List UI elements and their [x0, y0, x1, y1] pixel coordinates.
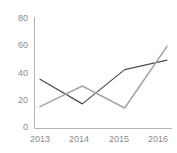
y-tick-label-20: 20	[6, 96, 28, 105]
x-tick-label-2015: 2015	[104, 135, 134, 144]
x-tick-label-2016: 2016	[143, 135, 173, 144]
line-chart: 80 60 40 20 0 2013 2014 2015 2016	[0, 0, 177, 153]
x-tick-label-2014: 2014	[64, 135, 94, 144]
y-tick-label-40: 40	[6, 69, 28, 78]
y-tick-label-80: 80	[6, 14, 28, 23]
series-line-2	[40, 46, 167, 108]
x-tick-label-2013: 2013	[25, 135, 55, 144]
y-tick-label-0: 0	[6, 123, 28, 132]
y-tick-label-60: 60	[6, 41, 28, 50]
